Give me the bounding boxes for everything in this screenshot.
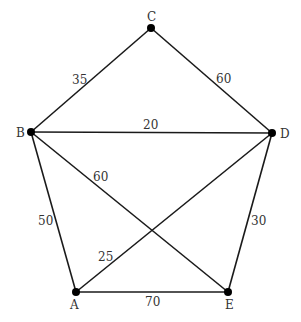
edge-b-c xyxy=(31,28,151,132)
node-label-d: D xyxy=(280,127,290,141)
weight-c-d: 60 xyxy=(216,72,231,86)
edge-a-d xyxy=(76,133,272,292)
weight-a-b: 50 xyxy=(38,214,53,228)
node-label-c: C xyxy=(147,10,156,24)
node-label-a: A xyxy=(69,298,79,312)
node-label-b: B xyxy=(16,126,25,140)
node-b xyxy=(27,128,35,136)
edge-b-d xyxy=(31,132,272,133)
weight-a-d: 25 xyxy=(98,250,113,264)
weight-b-e: 60 xyxy=(93,170,108,184)
edge-b-e xyxy=(31,132,228,292)
weight-a-e: 70 xyxy=(145,295,160,309)
node-d xyxy=(268,129,276,137)
edge-c-d xyxy=(151,28,272,133)
node-c xyxy=(147,24,155,32)
edge-d-e xyxy=(228,133,272,292)
node-e xyxy=(224,288,232,296)
node-a xyxy=(72,288,80,296)
node-label-e: E xyxy=(225,298,234,312)
edge-a-b xyxy=(31,132,76,292)
graph-diagram: 35 60 20 60 25 50 30 70 C B D A E xyxy=(0,0,301,322)
weight-b-c: 35 xyxy=(72,73,87,87)
weight-b-d: 20 xyxy=(143,118,158,132)
weight-d-e: 30 xyxy=(251,214,266,228)
